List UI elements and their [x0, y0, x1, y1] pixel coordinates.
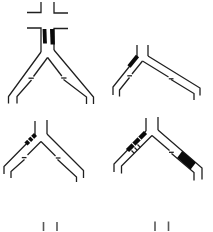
branch-outer-right	[148, 56, 200, 96]
branch-inner-right-upper	[48, 58, 62, 77]
branch-outer-left	[9, 52, 42, 104]
branch-inner-left-lower	[120, 78, 130, 97]
branch-inner-left-lower	[17, 80, 32, 104]
diagram-page	[0, 0, 213, 231]
branch-inner-right-lower	[58, 160, 77, 183]
junction-middle-right	[114, 117, 202, 181]
junction-top-left	[9, 2, 94, 104]
branch-outer-right	[54, 50, 94, 104]
solid-bar-left-mark	[43, 29, 47, 44]
junction-middle-left	[4, 120, 84, 182]
stem-line-left	[27, 28, 41, 52]
junction-diagram	[0, 0, 213, 231]
crossroad-corner-left	[27, 2, 41, 13]
solid-bar-right-mark	[50, 29, 55, 45]
partial-figure-bottom-left	[44, 222, 58, 231]
hatched-band-mark	[24, 133, 37, 146]
branch-inner-right-lower	[64, 80, 87, 105]
partial-figure-bottom-right	[155, 222, 169, 232]
hatch-tick	[135, 148, 138, 151]
hatch-tick	[132, 151, 135, 154]
junction-top-right	[113, 45, 200, 100]
solid-parallelogram-mark	[127, 55, 139, 68]
stem-line-right	[54, 29, 68, 51]
branch-inner-left-lower	[11, 160, 25, 179]
crossroad-corner-right	[54, 2, 68, 13]
branch-inner-right-upper	[143, 61, 169, 77]
branch-inner-right-upper	[41, 142, 56, 157]
branch-outer-right	[47, 134, 84, 178]
hatch-tick	[138, 145, 141, 148]
